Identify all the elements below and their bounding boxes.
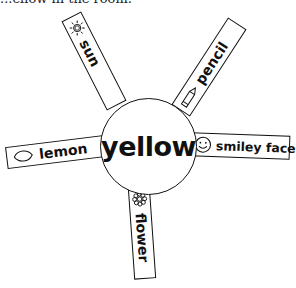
spoke-smiley-face: smiley face bbox=[190, 132, 291, 159]
spoke-flower: flower bbox=[128, 186, 156, 279]
sun-icon bbox=[69, 20, 85, 36]
spoke-lemon: lemon bbox=[5, 135, 107, 169]
spoke-label-lemon: lemon bbox=[38, 140, 88, 162]
spoke-label-sun: sun bbox=[76, 37, 103, 69]
spoke-label-pencil: pencil bbox=[192, 39, 231, 87]
center-word: yellow bbox=[101, 131, 196, 162]
lemon-icon bbox=[13, 149, 34, 163]
spoke-sun: sun bbox=[61, 11, 126, 110]
spoke-pencil: pencil bbox=[171, 17, 246, 116]
pencil-icon bbox=[178, 83, 201, 110]
center-circle: yellow bbox=[100, 98, 197, 195]
spoke-label-flower: flower bbox=[133, 212, 152, 262]
caption-text: ...ellow in the room. bbox=[0, 0, 132, 6]
spoke-label-smiley-face: smiley face bbox=[216, 138, 296, 156]
